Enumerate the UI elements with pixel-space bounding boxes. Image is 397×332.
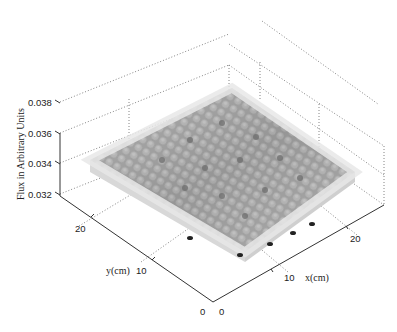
x-axis-title: x(cm) (305, 272, 329, 284)
z-axis-title: Flux in Arbitrary Units (15, 108, 26, 200)
y-axis-title: y(cm) (106, 265, 130, 277)
flux-surface-plot: 0.038 0.036 0.034 0.032 Flux in Arbitrar… (0, 0, 397, 332)
y-tick-0: 0 (200, 306, 205, 317)
x-tick-20: 20 (350, 233, 361, 244)
y-tick-10: 10 (136, 265, 147, 276)
z-tick-0.034: 0.034 (28, 158, 52, 169)
z-tick-0.036: 0.036 (28, 128, 52, 139)
y-tick-20: 20 (75, 223, 86, 234)
x-tick-10: 10 (284, 272, 295, 283)
z-tick-0.032: 0.032 (28, 189, 52, 200)
z-tick-0.038: 0.038 (28, 97, 52, 108)
flux-surface (90, 88, 355, 262)
x-tick-0: 0 (219, 306, 224, 317)
